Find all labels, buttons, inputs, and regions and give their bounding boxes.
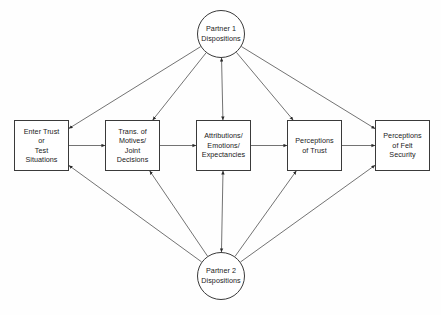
edge-partner2-to-box2	[150, 171, 208, 256]
edge-partner1-to-box4	[236, 52, 293, 120]
node-label-line: Motives/	[119, 136, 146, 145]
edge-partner1-to-box1	[69, 47, 201, 129]
node-label-line: Perceptions	[295, 136, 334, 145]
node-label-line: Trans. of	[118, 127, 147, 136]
node-partner-1-dispositions[interactable]: Partner 1 Dispositions	[197, 10, 245, 58]
edge-partner1-to-box2	[153, 53, 206, 120]
diagram-canvas: Partner 1 Dispositions Partner 2 Disposi…	[0, 0, 441, 315]
node-label-line: Partner 1	[206, 24, 236, 34]
edge-partner1-box3-bidirectional	[222, 58, 223, 120]
node-label-line: Partner 2	[206, 266, 236, 276]
node-label-line: Dispositions	[201, 34, 240, 44]
node-partner-2-dispositions[interactable]: Partner 2 Dispositions	[197, 252, 245, 300]
node-label-line: or	[38, 136, 45, 145]
node-label-line: Decisions	[117, 155, 149, 164]
node-transformation-of-motives-joint-decisions[interactable]: Trans. of Motives/ Joint Decisions	[105, 120, 160, 171]
node-label-line: Joint	[125, 146, 140, 155]
node-enter-trust-or-test-situations[interactable]: Enter Trust or Test Situations	[14, 120, 69, 171]
node-label-line: Situations	[25, 155, 57, 164]
node-label-line: Security	[389, 150, 415, 159]
node-label-line: Perceptions	[383, 131, 422, 140]
edge-partner2-box3-bidirectional	[221, 171, 223, 252]
node-label-line: Enter Trust	[24, 127, 60, 136]
node-label-line: Test	[35, 146, 48, 155]
node-label-line: Emotions/	[207, 141, 239, 150]
edge-partner2-to-box1	[69, 165, 202, 261]
edge-partner1-to-box5	[241, 47, 375, 129]
node-label-line: Expectancies	[202, 150, 245, 159]
node-label-line: Dispositions	[201, 276, 240, 286]
node-attributions-emotions-expectancies[interactable]: Attributions/ Emotions/ Expectancies	[196, 120, 251, 171]
edge-partner2-to-box5	[240, 165, 375, 262]
node-label-line: of Felt	[392, 141, 412, 150]
node-label-line: Attributions/	[204, 131, 243, 140]
node-perceptions-of-felt-security[interactable]: Perceptions of Felt Security	[375, 120, 430, 171]
node-label-line: of Trust	[302, 146, 326, 155]
node-perceptions-of-trust[interactable]: Perceptions of Trust	[287, 120, 342, 171]
